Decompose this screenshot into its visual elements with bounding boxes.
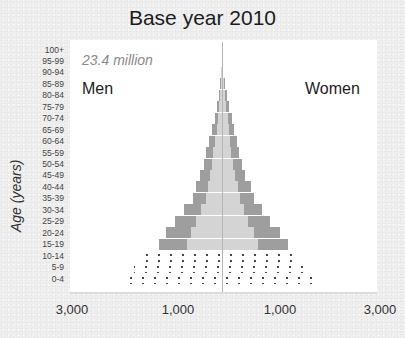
x-axis-line: [70, 292, 377, 294]
x-tick-left-3000: 3,000: [47, 302, 97, 317]
dotted-bar: [134, 262, 308, 273]
bar-men: [166, 227, 222, 238]
dotted-bar: [125, 273, 316, 284]
bar-men: [206, 147, 222, 158]
y-tick-label: 65-69: [24, 125, 64, 135]
bar-men: [200, 170, 222, 181]
y-tick-label: 30-34: [24, 205, 64, 215]
bar-women: [222, 113, 232, 124]
bar-men: [193, 193, 222, 204]
bar-men: [209, 136, 222, 147]
bar-women: [222, 193, 254, 204]
bar-women: [222, 204, 262, 215]
y-tick-label: 100+: [24, 45, 64, 55]
y-tick-label: 60-64: [24, 136, 64, 146]
y-tick-label: 55-59: [24, 148, 64, 158]
legend-women: Women: [305, 80, 360, 98]
bar-men: [196, 181, 222, 192]
bar-women: [222, 227, 280, 238]
bar-men: [184, 204, 222, 215]
bar-women: [222, 159, 242, 170]
y-tick-label: 75-79: [24, 102, 64, 112]
y-tick-label: 35-39: [24, 193, 64, 203]
bar-women: [222, 101, 229, 112]
y-tick-label: 10-14: [24, 251, 64, 261]
y-tick-label: 70-74: [24, 113, 64, 123]
chart-title: Base year 2010: [0, 6, 405, 30]
bar-women: [222, 124, 234, 135]
bar-women: [222, 181, 251, 192]
y-tick-label: 45-49: [24, 170, 64, 180]
bar-men: [175, 216, 222, 227]
y-axis-title: Age (years): [8, 160, 24, 232]
bar-women: [222, 147, 239, 158]
y-tick-label: 95-99: [24, 56, 64, 66]
y-tick-label: 50-54: [24, 159, 64, 169]
y-tick-label: 25-29: [24, 216, 64, 226]
y-tick-label: 80-84: [24, 90, 64, 100]
dotted-bar: [141, 250, 299, 261]
bar-women: [222, 239, 288, 250]
bar-women: [222, 216, 270, 227]
bar-men: [159, 239, 222, 250]
y-tick-label: 5-9: [24, 262, 64, 272]
y-tick-label: 40-44: [24, 182, 64, 192]
total-population-annotation: 23.4 million: [82, 52, 153, 68]
bar-women: [222, 170, 245, 181]
y-tick-label: 20-24: [24, 228, 64, 238]
x-tick-left-1000: 1,000: [153, 302, 203, 317]
y-tick-label: 90-94: [24, 67, 64, 77]
legend-men: Men: [82, 80, 113, 98]
y-tick-label: 0-4: [24, 274, 64, 284]
y-tick-label: 15-19: [24, 239, 64, 249]
bar-women: [222, 136, 237, 147]
bar-men: [215, 113, 222, 124]
bar-men: [212, 124, 222, 135]
center-axis-line: [222, 42, 223, 292]
x-tick-right-3000: 3,000: [355, 302, 405, 317]
bar-men: [204, 159, 222, 170]
x-tick-right-1000: 1,000: [255, 302, 305, 317]
y-tick-label: 85-89: [24, 79, 64, 89]
